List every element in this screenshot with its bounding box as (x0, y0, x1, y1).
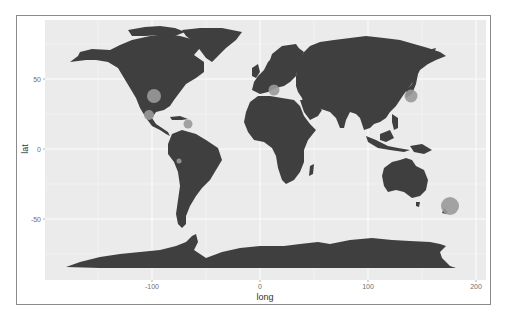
point-united-states[interactable] (147, 89, 161, 103)
x-axis-title: long (256, 292, 273, 302)
y-tick-label: -50 (31, 216, 41, 223)
point-peru[interactable] (177, 159, 182, 164)
point-italy[interactable] (269, 85, 280, 96)
y-tick-label: 0 (37, 146, 41, 153)
point-mexico[interactable] (144, 110, 154, 120)
y-axis-title: lat (20, 144, 30, 154)
y-tick-label: 50 (33, 76, 41, 83)
point-japan[interactable] (405, 90, 418, 103)
world-map-plot: -100 0 100 200 50 0 -50 long lat (0, 0, 505, 321)
x-tick-label: 0 (258, 283, 262, 290)
point-new-zealand[interactable] (441, 197, 459, 215)
x-tick-label: 200 (470, 283, 482, 290)
point-puerto-rico[interactable] (184, 120, 193, 129)
x-tick-label: 100 (362, 283, 374, 290)
x-tick-label: -100 (145, 283, 159, 290)
